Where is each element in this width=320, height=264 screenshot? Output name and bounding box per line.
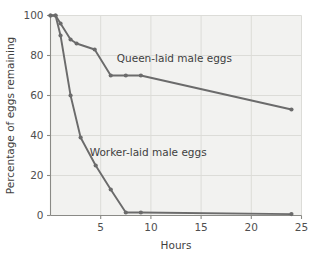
y-tick-label-60: 60	[30, 89, 43, 101]
y-tick-label-80: 80	[30, 49, 43, 61]
data-point	[48, 13, 52, 17]
data-point	[109, 73, 113, 77]
data-point	[75, 41, 79, 45]
data-point	[79, 135, 83, 139]
plot-area-background	[51, 16, 302, 216]
x-tick-label-15: 15	[194, 221, 207, 233]
x-axis-title: Hours	[161, 239, 192, 251]
chart-container: 510152025 020406080100 Queen-laid male e…	[0, 0, 320, 264]
series-label-2: Worker-laid male eggs	[90, 146, 207, 158]
x-axis-tick-labels: 510152025	[97, 221, 308, 233]
series-label-1: Queen-laid male eggs	[117, 52, 232, 64]
data-point	[53, 13, 57, 17]
data-point	[124, 210, 128, 214]
x-tick-label-10: 10	[144, 221, 157, 233]
y-tick-label-0: 0	[37, 209, 44, 221]
x-tick-label-25: 25	[295, 221, 308, 233]
data-point	[93, 47, 97, 51]
data-point	[58, 33, 62, 37]
data-point	[109, 187, 113, 191]
y-axis-tick-labels: 020406080100	[23, 9, 43, 221]
y-axis-title: Percentage of eggs remaining	[4, 37, 16, 194]
data-point	[139, 210, 143, 214]
data-point	[94, 163, 98, 167]
data-point	[289, 212, 293, 216]
y-tick-label-20: 20	[30, 169, 43, 181]
x-tick-label-5: 5	[97, 221, 104, 233]
y-tick-label-100: 100	[23, 9, 43, 21]
y-tick-label-40: 40	[30, 129, 43, 141]
line-chart: 510152025 020406080100 Queen-laid male e…	[0, 0, 320, 264]
data-point	[68, 37, 72, 41]
data-point	[58, 21, 62, 25]
data-point	[124, 73, 128, 77]
data-point	[289, 107, 293, 111]
plot-background-group	[51, 16, 302, 216]
x-tick-label-20: 20	[245, 221, 258, 233]
data-point	[68, 93, 72, 97]
data-point	[139, 73, 143, 77]
